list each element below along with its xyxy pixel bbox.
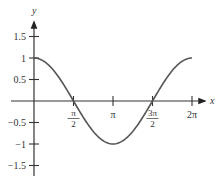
y-tick-label: −1.5 [8,160,26,171]
y-tick-label: 1 [21,53,26,64]
x-tick-label-numerator: π [71,108,76,118]
x-tick-label: π [110,109,115,120]
x-tick-label: 2π [187,109,197,120]
x-tick-label-numerator: 3π [148,108,158,118]
y-tick-label: 1.5 [14,31,27,42]
y-tick-label: −1 [15,139,26,150]
x-tick-label-denominator: 2 [150,119,155,129]
x-axis-label: x [209,95,215,106]
axes [11,22,205,176]
y-tick-label: 0.5 [14,74,27,85]
y-tick-label: −0.5 [8,117,26,128]
y-axis-label: y [31,5,37,16]
cosine-chart: 1.510.5−0.5−1−1.5π2π3π22π x y [0,0,216,179]
x-tick-label-denominator: 2 [71,119,76,129]
